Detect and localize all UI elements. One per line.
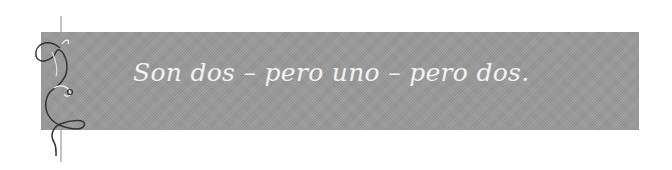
vine-flourish-icon <box>0 0 100 170</box>
caption-text: Son dos – pero uno – pero dos. <box>133 58 529 87</box>
